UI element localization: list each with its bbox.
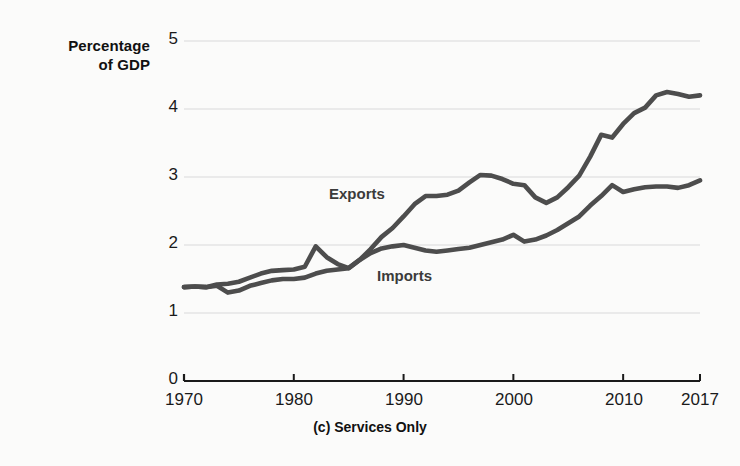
figure-caption: (c) Services Only	[0, 419, 740, 435]
y-tick-label-4: 4	[152, 97, 178, 117]
x-tick-label-1980: 1980	[259, 390, 329, 410]
x-tick-label-2010: 2010	[589, 390, 659, 410]
y-tick-label-5: 5	[152, 29, 178, 49]
chart-figure: Percentage of GDP 5 4 3 2 1 0 1970 1980 …	[0, 0, 740, 466]
y-tick-label-1: 1	[152, 301, 178, 321]
y-tick-label-3: 3	[152, 165, 178, 185]
x-tick-label-2017: 2017	[665, 390, 735, 410]
y-axis-title-line2: of GDP	[20, 55, 150, 74]
y-tick-label-2: 2	[152, 233, 178, 253]
series-label-exports: Exports	[329, 185, 385, 202]
x-tick-label-1990: 1990	[369, 390, 439, 410]
y-axis-title-line1: Percentage	[20, 36, 150, 55]
series-label-imports: Imports	[377, 267, 432, 284]
x-tick-label-2000: 2000	[479, 390, 549, 410]
x-tick-label-1970: 1970	[149, 390, 219, 410]
y-tick-label-0: 0	[152, 369, 178, 389]
